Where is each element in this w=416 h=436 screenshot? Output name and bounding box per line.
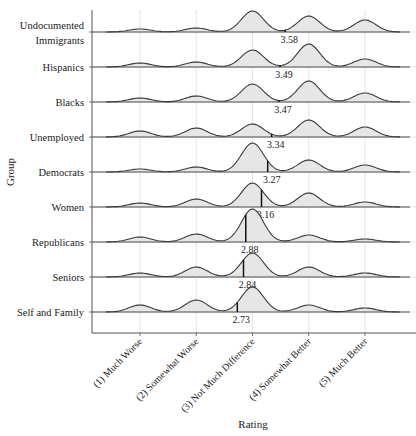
group-label: Women [52,202,85,213]
density-area [106,287,400,312]
density-area [106,253,400,277]
group-label: Self and Family [17,307,85,318]
group-label: Blacks [55,97,84,108]
x-axis-labels: (1) Much Worse(2) Somewhat Worse(3) Not … [91,333,371,415]
group-label: UndocumentedImmigrants [20,20,85,46]
group-label: Hispanics [43,62,84,73]
y-axis-title: Group [4,157,16,186]
group-label: Seniors [53,272,85,283]
mean-label: 3.34 [267,139,285,150]
mean-label: 3.27 [263,174,281,185]
y-axis-labels: UndocumentedImmigrantsHispanicsBlacksUne… [17,20,92,318]
group-label: Unemployed [30,132,85,143]
rating-label: (5) Much Better [316,335,371,390]
density-area [106,143,400,172]
group-label: Republicans [32,237,84,248]
group-label: Democrats [39,167,84,178]
mean-label: 3.58 [280,34,298,45]
density-area [106,120,400,137]
mean-label: 3.47 [274,104,292,115]
mean-label: 2.73 [233,314,251,325]
density-area [106,44,400,67]
ridgeline-chart: 3.583.493.473.343.273.162.882.842.73 Und… [0,0,416,436]
x-axis-title: Rating [238,418,268,430]
density-area [106,209,400,242]
rating-label: (4) Somewhat Better [246,335,314,403]
density-area [106,11,400,32]
rating-label: (1) Much Worse [91,335,146,390]
mean-label: 3.49 [275,69,293,80]
